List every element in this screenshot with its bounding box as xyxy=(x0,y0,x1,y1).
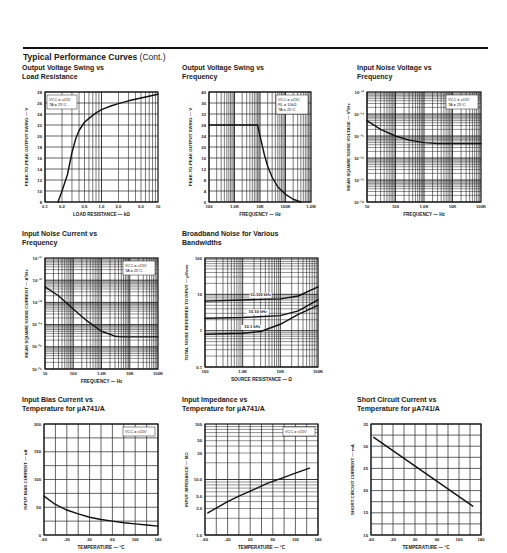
y-tick-label: 150 xyxy=(34,449,42,454)
x-tick-label: -20 xyxy=(225,537,232,542)
x-tick-label: 0.5 xyxy=(82,204,88,209)
x-tick-label: 10 xyxy=(43,371,48,376)
x-tick-label: 60 xyxy=(110,537,115,542)
y-tick-label: 24 xyxy=(201,134,206,139)
y-tick-label: 4 xyxy=(204,189,207,194)
x-tick-label: 140 xyxy=(315,537,323,542)
chart-c4: 101001.0K10K100K10⁻²⁶10⁻²⁵10⁻²⁴10⁻²³10⁻²… xyxy=(15,228,188,399)
x-tick-label: 100K xyxy=(476,204,486,209)
y-tick-label: 40 xyxy=(201,90,206,95)
x-tick-label: 1.0K xyxy=(97,371,106,376)
section-title: Typical Performance Curves (Cont.) xyxy=(23,52,166,62)
y-tick-label: 10⁻²² xyxy=(33,278,43,283)
y-tick-label: 10⁻²⁶ xyxy=(32,367,42,372)
x-axis-label: FREQUENCY — Hz xyxy=(81,379,123,384)
chart-c6: -60-202060100140050100150200TEMPERATURE … xyxy=(14,394,188,553)
y-tick-label: 10⁻²¹ xyxy=(33,256,43,261)
x-tick-label: 100 xyxy=(392,204,400,209)
y-tick-label: 10⁻¹⁴ xyxy=(354,112,364,117)
series-label: 10-100 kHz xyxy=(250,292,271,297)
x-tick-label: 10K xyxy=(126,371,134,376)
x-tick-label: 60 xyxy=(270,537,275,542)
x-tick-label: 100 xyxy=(132,537,140,542)
x-tick-label: 1.0 xyxy=(99,204,105,209)
y-tick-label: 200 xyxy=(34,422,42,427)
y-tick-label: 100 xyxy=(195,422,203,427)
annotation-text: TA = 25°C xyxy=(49,102,67,107)
y-tick-label: 30 xyxy=(363,444,368,449)
y-tick-label: 100 xyxy=(34,477,42,482)
y-tick-label: 0.1 xyxy=(196,365,202,370)
x-tick-label: 20 xyxy=(413,537,418,542)
y-tick-label: 28 xyxy=(201,123,206,128)
annotation-text: VCC = ±15V xyxy=(125,429,147,434)
y-tick-label: 10⁻¹⁷ xyxy=(354,178,364,183)
x-tick-label: 60 xyxy=(435,537,440,542)
grid xyxy=(205,424,318,535)
x-axis-label: SOURCE RESISTANCE — Ω xyxy=(231,377,292,382)
y-tick-label: 10⁻¹⁸ xyxy=(354,200,364,205)
x-tick-label: 10 xyxy=(365,204,370,209)
y-tick-label: 10⁻¹⁶ xyxy=(354,156,364,161)
chart-c2: 1001.0K10K100K1.0M0481216202428323640FRE… xyxy=(179,62,341,232)
y-tick-label: 5.0 xyxy=(196,494,202,499)
y-tick-label: 20 xyxy=(363,488,368,493)
y-tick-label: 35 xyxy=(363,422,368,427)
y-tick-label: 3.0 xyxy=(196,506,202,511)
y-tick-label: 15 xyxy=(363,510,368,515)
x-axis-label: FREQUENCY — Hz xyxy=(403,212,445,217)
y-tick-label: 8 xyxy=(204,178,207,183)
series-label: 10-10 kHz xyxy=(248,309,266,314)
x-tick-label: 100 xyxy=(202,369,210,374)
x-tick-label: -60 xyxy=(368,537,375,542)
annotation-text: TA = 25°C xyxy=(278,107,296,112)
y-tick-label: 50 xyxy=(197,438,202,443)
chart-c1: 0.10.20.51.02.05.01081012141618202224262… xyxy=(15,62,188,232)
annotation-text: TA = 25°C xyxy=(448,102,466,107)
x-axis-label: TEMPERATURE — °C xyxy=(78,545,126,550)
y-tick-label: 10⁻¹³ xyxy=(355,90,365,95)
x-tick-label: 100 xyxy=(292,537,300,542)
x-tick-label: 0.2 xyxy=(59,204,65,209)
annotation-text: TA = 25°C xyxy=(125,268,143,273)
y-tick-label: 10⁻²⁴ xyxy=(32,322,42,327)
series-line xyxy=(209,125,301,202)
x-tick-label: 1.0M xyxy=(306,204,316,209)
y-tick-label: 14 xyxy=(37,167,42,172)
x-tick-label: -60 xyxy=(41,537,48,542)
x-tick-label: -60 xyxy=(202,537,209,542)
y-tick-label: 26 xyxy=(37,101,42,106)
y-tick-label: 1 xyxy=(200,328,203,333)
x-tick-label: -20 xyxy=(390,537,397,542)
y-tick-label: 16 xyxy=(201,156,206,161)
x-tick-label: 100K xyxy=(153,371,163,376)
x-tick-label: 5.0 xyxy=(138,204,144,209)
y-tick-label: 10 xyxy=(37,189,42,194)
x-tick-label: -20 xyxy=(64,537,71,542)
chart-c8: -60-202060100140101520253035TEMPERATURE … xyxy=(341,394,507,553)
y-tick-label: 20 xyxy=(37,134,42,139)
y-axis-label: PEAK-TO-PEAK OUTPUT SWING — V xyxy=(24,108,29,187)
x-tick-label: 10K xyxy=(449,204,457,209)
y-tick-label: 20 xyxy=(201,145,206,150)
series-line xyxy=(208,468,310,513)
x-tick-label: 20 xyxy=(87,537,92,542)
x-tick-label: 1.0K xyxy=(238,369,247,374)
x-tick-label: 100 xyxy=(206,204,214,209)
y-tick-label: 10.0 xyxy=(194,477,203,482)
y-axis-label: INPUT BIAS CURRENT — nA xyxy=(23,449,28,510)
x-axis-label: TEMPERATURE — °C xyxy=(238,545,286,550)
y-tick-label: 18 xyxy=(37,145,42,150)
annotation-text: VCC = ±15V xyxy=(285,429,307,434)
x-tick-label: 1.0K xyxy=(420,204,429,209)
y-tick-label: 28 xyxy=(37,90,42,95)
x-tick-label: 100K xyxy=(313,369,323,374)
x-tick-label: 140 xyxy=(478,537,486,542)
y-axis-label: MEAN SQUARE NOISE CURRENT — A²/Hz xyxy=(24,269,29,358)
chart-c7: -60-2020601001401.03.05.010.03050100TEMP… xyxy=(175,394,348,553)
y-tick-label: 32 xyxy=(201,112,206,117)
x-tick-label: 140 xyxy=(155,537,163,542)
y-tick-label: 50 xyxy=(36,505,41,510)
y-tick-label: 36 xyxy=(201,101,206,106)
x-tick-label: 100 xyxy=(70,371,78,376)
